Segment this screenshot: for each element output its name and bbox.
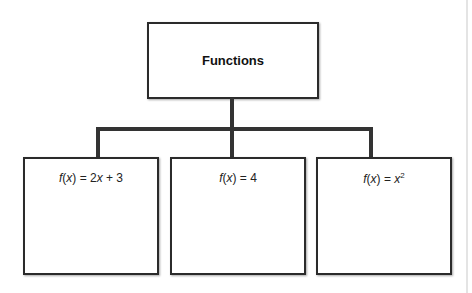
connector-child-2: [230, 127, 234, 158]
connector-horizontal: [96, 127, 373, 131]
connector-child-3: [369, 127, 373, 158]
page-edge: [466, 0, 468, 293]
formula-linear: f(x) = 2x + 3: [25, 171, 157, 185]
connector-root: [230, 98, 234, 129]
root-node-label: Functions: [202, 53, 264, 68]
formula-quadratic: f(x) = x2: [318, 171, 450, 186]
child-node-linear: f(x) = 2x + 3: [23, 157, 159, 275]
child-node-constant: f(x) = 4: [170, 157, 306, 275]
child-node-quadratic: f(x) = x2: [316, 157, 452, 275]
connector-child-1: [96, 127, 100, 158]
formula-constant: f(x) = 4: [172, 171, 304, 185]
root-node-functions: Functions: [147, 22, 319, 99]
